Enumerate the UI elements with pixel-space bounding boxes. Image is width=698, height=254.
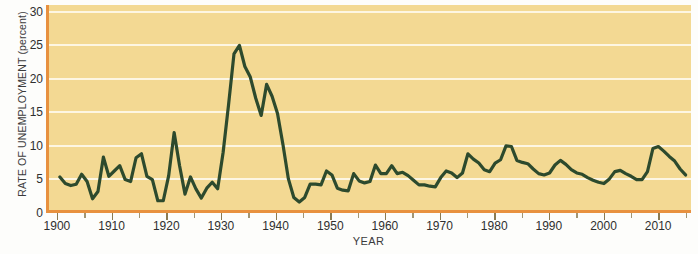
x-tick-label-1980: 1980 [481,219,508,233]
x-tick-minor-1905 [84,213,86,218]
x-tick-label-1950: 1950 [317,219,344,233]
x-tick-label-1920: 1920 [153,219,180,233]
x-tick-label-1930: 1930 [208,219,235,233]
x-tick-minor-2005 [631,213,633,218]
y-tick-label-30: 30 [30,5,43,19]
x-tick-label-1900: 1900 [44,219,71,233]
x-tick-minor-1995 [576,213,578,218]
x-tick-minor-1915 [139,213,141,218]
y-tick-label-5: 5 [36,172,43,186]
x-tick-minor-1985 [522,213,524,218]
x-tick-label-1960: 1960 [372,219,399,233]
y-tick-label-0: 0 [36,206,43,220]
unemployment-series-line [49,5,691,210]
y-tick-label-20: 20 [30,72,43,86]
x-axis-tick-labels: 1900191019201930194019501960197019801990… [46,219,691,235]
x-tick-label-2000: 2000 [590,219,617,233]
y-axis-tick-labels: 051015202530 [20,0,43,254]
x-tick-label-1990: 1990 [536,219,563,233]
x-tick-minor-1965 [412,213,414,218]
plot-area [46,5,691,213]
x-tick-label-1940: 1940 [262,219,289,233]
x-tick-label-2010: 2010 [645,219,672,233]
unemployment-rate-chart: RATE OF UNEMPLOYMENT (percent) 051015202… [0,0,698,254]
plot-inner [49,5,691,210]
x-axis-title: YEAR [46,235,691,247]
y-tick-label-15: 15 [30,105,43,119]
y-tick-label-10: 10 [30,139,43,153]
x-tick-minor-1935 [248,213,250,218]
y-tick-label-25: 25 [30,38,43,52]
x-tick-label-1970: 1970 [426,219,453,233]
x-tick-minor-2015 [686,213,688,218]
x-tick-minor-1955 [358,213,360,218]
x-tick-minor-1945 [303,213,305,218]
x-tick-minor-1975 [467,213,469,218]
x-tick-label-1910: 1910 [98,219,125,233]
x-tick-minor-1925 [194,213,196,218]
